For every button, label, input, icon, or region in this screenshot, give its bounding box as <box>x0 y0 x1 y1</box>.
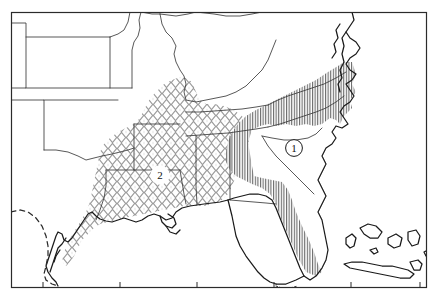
region-1-label-text: 1 <box>291 142 297 154</box>
region-2-diamond-hatch <box>11 12 427 288</box>
region-label-1: 1 <box>286 140 303 157</box>
region-label-2: 2 <box>152 167 169 184</box>
region-2-label-text: 2 <box>157 169 163 181</box>
distribution-map: 1 2 <box>0 0 440 305</box>
figure-container: 1 2 <box>0 0 440 305</box>
figure-caption <box>0 293 440 305</box>
dashed-international-border <box>11 210 58 286</box>
